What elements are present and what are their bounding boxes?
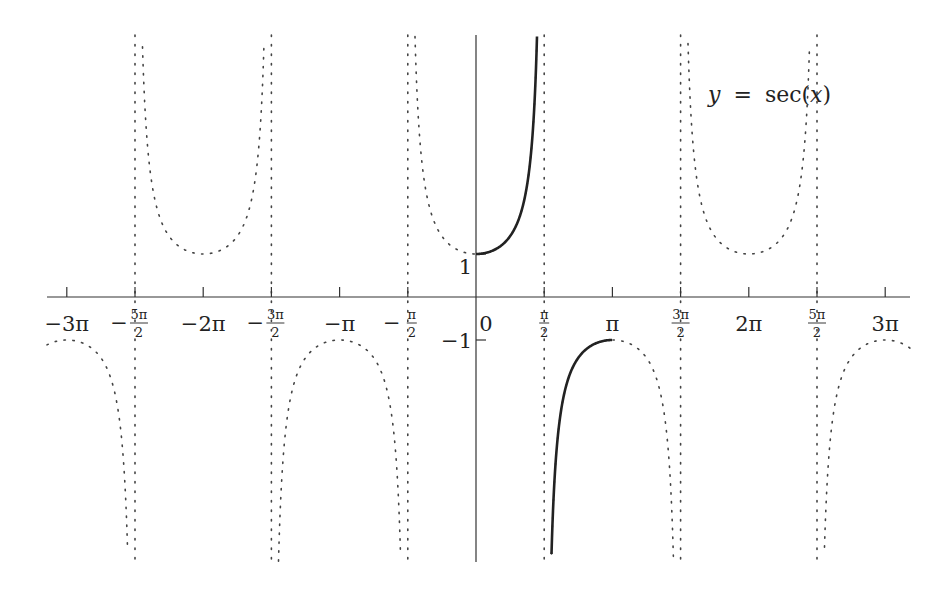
x-tick-denominator: 2 xyxy=(813,325,821,340)
x-tick-denominator: 2 xyxy=(676,325,684,340)
x-tick-numerator: 5π xyxy=(131,307,148,322)
x-tick-label: −3π xyxy=(44,312,89,336)
x-tick-sign: − xyxy=(247,311,265,335)
x-tick-sign: − xyxy=(110,311,128,335)
x-tick-denominator: 2 xyxy=(135,325,143,340)
x-tick-denominator: 2 xyxy=(271,325,279,340)
x-tick-sign: − xyxy=(383,311,401,335)
x-tick-label: −2π xyxy=(181,312,226,336)
x-tick-label: π xyxy=(605,312,619,336)
chart-title: y = sec(x) xyxy=(707,82,831,107)
x-tick-label: 0 xyxy=(479,312,492,336)
x-tick-numerator: π xyxy=(540,307,549,322)
x-tick-numerator: π xyxy=(408,307,417,322)
x-tick-numerator: 3π xyxy=(267,307,284,322)
dotted-sec-curve xyxy=(47,37,910,562)
x-tick-label: 2π xyxy=(735,312,762,336)
y-tick-label: 1 xyxy=(459,255,472,279)
dotted-curve-path xyxy=(47,37,910,562)
x-tick-label: −π xyxy=(324,312,356,336)
x-tick-numerator: 5π xyxy=(809,307,826,322)
x-tick-denominator: 2 xyxy=(408,325,416,340)
x-tick-label: 3π xyxy=(872,312,899,336)
y-ticks: 1−1 xyxy=(441,254,486,353)
x-tick-denominator: 2 xyxy=(540,325,548,340)
y-tick-label: −1 xyxy=(441,329,472,353)
sec-chart: −3π−5π2−2π−3π2−π−π20π2π3π22π5π23π 1−1 y … xyxy=(0,0,952,590)
x-tick-numerator: 3π xyxy=(672,307,689,322)
